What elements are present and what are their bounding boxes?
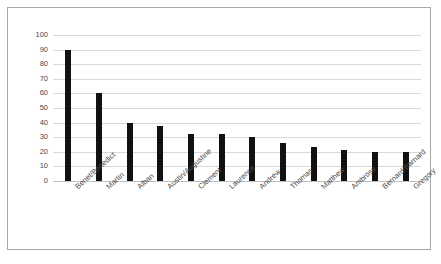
bar [311, 147, 317, 181]
x-tick-label: Thomas [289, 185, 294, 191]
chart-frame: 1009080706050403020100 Benet/BenedictMar… [7, 7, 431, 250]
gridline-80 [53, 64, 421, 65]
plot-area: 1009080706050403020100 Benet/BenedictMar… [53, 35, 421, 181]
y-tick-label-60: 60 [40, 90, 48, 98]
gridline-10 [53, 166, 421, 167]
y-tick-label-0: 0 [44, 177, 48, 185]
x-tick-label: Matthew [320, 185, 325, 191]
y-tick-label-100: 100 [35, 31, 48, 39]
y-tick-label-90: 90 [40, 46, 48, 54]
x-tick-label: Alban [136, 185, 141, 191]
gridline-40 [53, 123, 421, 124]
gridline-50 [53, 108, 421, 109]
bar [280, 143, 286, 181]
x-tick-label: Andrew [258, 185, 263, 191]
bar [341, 150, 347, 181]
bar [127, 123, 133, 181]
gridline-100 [53, 35, 421, 36]
bar [157, 126, 163, 181]
y-tick-label-20: 20 [40, 148, 48, 156]
x-tick-label: Martin [105, 185, 110, 191]
gridline-70 [53, 79, 421, 80]
x-tick-label: Gregory [412, 185, 417, 191]
bar [65, 50, 71, 181]
y-tick-label-70: 70 [40, 75, 48, 83]
y-tick-label-50: 50 [40, 104, 48, 112]
gridline-90 [53, 50, 421, 51]
x-tick-label: Ambrose [350, 185, 355, 191]
x-tick-label: Laurence [228, 185, 233, 191]
x-tick-label: Austin/Augustine [166, 185, 171, 191]
x-tick-label: Benet/Benedict [74, 185, 79, 191]
y-tick-label-30: 30 [40, 133, 48, 141]
y-tick-label-10: 10 [40, 163, 48, 171]
x-tick-label: Bernard/Barnard [381, 185, 386, 191]
x-tick-label: Clement [197, 185, 202, 191]
gridline-30 [53, 137, 421, 138]
y-tick-label-40: 40 [40, 119, 48, 127]
y-tick-label-80: 80 [40, 60, 48, 68]
gridline-60 [53, 93, 421, 94]
